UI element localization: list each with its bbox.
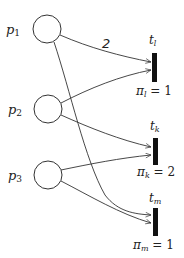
- transition-tm-bar: [153, 208, 158, 236]
- priority-tl-label: πl = 1: [135, 84, 172, 99]
- transition-tk: tk πk = 2: [136, 119, 175, 180]
- transition-tm: tm πm = 1: [132, 191, 174, 253]
- petri-net-diagram: 2 p1 p2 p3 tl πl = 1 tk πk = 2 tm πm = 1: [0, 0, 184, 258]
- place-p1-label: p1: [6, 22, 20, 38]
- transition-tl-bar: [152, 53, 157, 82]
- transition-tk-bar: [153, 138, 158, 165]
- place-p2: p2: [8, 95, 62, 123]
- priority-tk-label: πk = 2: [136, 165, 175, 180]
- place-p2-label: p2: [8, 102, 22, 118]
- arcs: [54, 35, 151, 223]
- arc-p2-tk: [61, 115, 151, 147]
- transition-tk-label: tk: [150, 119, 160, 134]
- transition-tl-label: tl: [149, 33, 157, 48]
- place-p3: p3: [8, 161, 62, 189]
- transition-tm-label: tm: [149, 191, 162, 206]
- arc-weight-label: 2: [102, 36, 110, 51]
- arc-p3-tm: [61, 181, 151, 223]
- place-p3-label: p3: [8, 168, 22, 184]
- priority-tm-label: πm = 1: [132, 238, 174, 253]
- place-p1-circle: [33, 15, 61, 43]
- place-p1: p1: [6, 15, 61, 43]
- arc-p1-tm: [54, 42, 151, 215]
- place-p3-circle: [34, 161, 62, 189]
- place-p2-circle: [34, 95, 62, 123]
- transition-tl: tl πl = 1: [135, 33, 172, 99]
